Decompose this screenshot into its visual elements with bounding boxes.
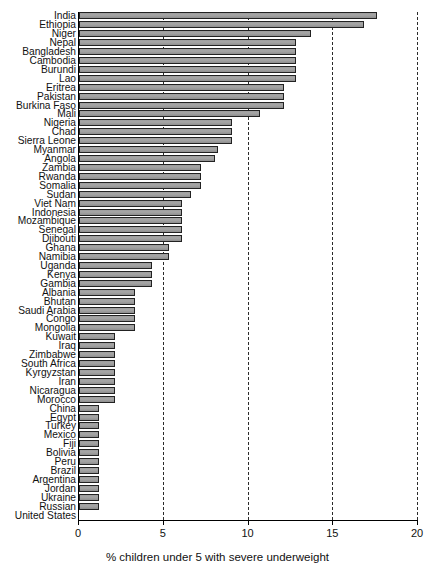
bar xyxy=(79,360,115,367)
bar xyxy=(79,280,152,287)
bar xyxy=(79,110,260,117)
bar xyxy=(79,289,135,296)
bar xyxy=(79,200,182,207)
bar xyxy=(79,235,182,242)
bar xyxy=(79,39,296,46)
bar xyxy=(79,458,99,465)
bar xyxy=(79,102,284,109)
bar xyxy=(79,93,284,100)
bar xyxy=(79,173,201,180)
bar xyxy=(79,485,99,492)
bar xyxy=(79,440,99,447)
bar xyxy=(79,128,232,135)
bar xyxy=(79,244,169,251)
bar xyxy=(79,137,232,144)
x-tick-label-20: 20 xyxy=(402,527,432,539)
bar xyxy=(79,333,115,340)
bar xyxy=(79,414,99,421)
x-tick-15 xyxy=(332,520,333,525)
bar xyxy=(79,57,296,64)
bar xyxy=(79,30,311,37)
bar xyxy=(79,378,115,385)
bar xyxy=(79,253,169,260)
bar xyxy=(79,449,99,456)
bar xyxy=(79,182,201,189)
bar xyxy=(79,66,296,73)
x-tick-label-15: 15 xyxy=(317,527,347,539)
gridline-15 xyxy=(332,12,333,520)
x-tick-label-5: 5 xyxy=(148,527,178,539)
bar xyxy=(79,476,99,483)
y-axis-line xyxy=(78,12,79,521)
bar xyxy=(79,369,115,376)
x-tick-label-10: 10 xyxy=(233,527,263,539)
bar xyxy=(79,12,377,19)
bar xyxy=(79,315,135,322)
bar xyxy=(79,48,296,55)
bar xyxy=(79,217,182,224)
bar xyxy=(79,387,115,394)
x-tick-label-0: 0 xyxy=(63,527,93,539)
bar xyxy=(79,422,99,429)
bar xyxy=(79,155,215,162)
bar xyxy=(79,262,152,269)
bar xyxy=(79,75,296,82)
category-label: United States xyxy=(15,511,76,521)
bar xyxy=(79,342,115,349)
bar xyxy=(79,467,99,474)
bar xyxy=(79,191,191,198)
bar xyxy=(79,146,218,153)
x-tick-10 xyxy=(248,520,249,525)
severe-underweight-bar-chart: IndiaEthiopiaNigerNepalBangladeshCambodi… xyxy=(0,0,435,581)
bar xyxy=(79,119,232,126)
bar xyxy=(79,494,99,501)
bar xyxy=(79,209,182,216)
bar xyxy=(79,351,115,358)
bar xyxy=(79,324,135,331)
bar xyxy=(79,21,364,28)
bar xyxy=(79,84,284,91)
x-tick-20 xyxy=(417,520,418,525)
gridline-20 xyxy=(417,12,418,520)
bar xyxy=(79,396,115,403)
bar xyxy=(79,405,99,412)
bar xyxy=(79,307,135,314)
x-tick-0 xyxy=(78,520,79,525)
bar xyxy=(79,431,99,438)
bar xyxy=(79,271,152,278)
bar xyxy=(79,164,201,171)
x-tick-5 xyxy=(163,520,164,525)
bar xyxy=(79,503,99,510)
x-axis-title: % children under 5 with severe underweig… xyxy=(0,551,435,563)
bar xyxy=(79,226,182,233)
bar xyxy=(79,298,135,305)
